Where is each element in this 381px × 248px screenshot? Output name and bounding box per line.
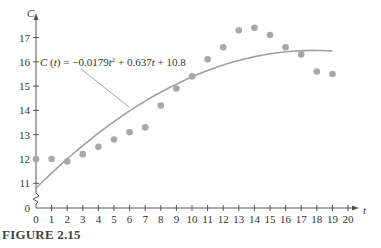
x-tick-label: 17 xyxy=(296,213,308,225)
data-point xyxy=(267,32,274,39)
scatter-chart: Ct01112131415161701234567891011121314151… xyxy=(0,0,381,248)
x-tick-label: 1 xyxy=(49,213,55,225)
y-tick-label: 11 xyxy=(19,177,30,189)
x-tick-label: 11 xyxy=(202,213,213,225)
x-tick-label: 15 xyxy=(265,213,277,225)
x-tick-label: 7 xyxy=(142,213,148,225)
data-point xyxy=(126,129,133,136)
data-points xyxy=(33,24,336,164)
x-tick-label: 14 xyxy=(249,213,261,225)
axes: Ct01112131415161701234567891011121314151… xyxy=(19,7,367,225)
fitted-curve xyxy=(36,50,332,188)
data-point xyxy=(236,27,243,34)
x-tick-label: 9 xyxy=(174,213,180,225)
data-point xyxy=(314,68,321,75)
data-point xyxy=(298,51,305,58)
x-tick-label: 19 xyxy=(327,213,339,225)
x-axis-title: t xyxy=(363,204,367,216)
data-point xyxy=(48,156,55,163)
data-point xyxy=(204,56,211,63)
data-point xyxy=(251,24,258,31)
data-point xyxy=(142,124,149,131)
data-point xyxy=(95,144,102,151)
x-tick-label: 0 xyxy=(33,213,39,225)
data-point xyxy=(111,136,118,143)
y-tick-label: 14 xyxy=(19,104,31,116)
x-tick-label: 18 xyxy=(311,213,323,225)
data-point xyxy=(189,73,196,80)
x-tick-label: 4 xyxy=(96,213,102,225)
data-point xyxy=(329,71,336,78)
y-tick-label: 12 xyxy=(19,153,30,165)
data-point xyxy=(158,102,165,109)
data-point xyxy=(173,85,180,92)
x-tick-label: 20 xyxy=(343,213,355,225)
x-tick-label: 12 xyxy=(218,213,229,225)
y-tick-label: 15 xyxy=(19,80,31,92)
data-point xyxy=(33,156,40,163)
y-axis-title: C xyxy=(27,7,35,19)
data-point xyxy=(64,158,71,165)
y-tick-label: 17 xyxy=(19,32,31,44)
x-tick-label: 6 xyxy=(127,213,133,225)
y-tick-label: 13 xyxy=(19,129,31,141)
x-tick-label: 13 xyxy=(233,213,245,225)
figure-caption: FIGURE 2.15 xyxy=(2,227,81,243)
equation-annotation: C (t) = −0.0179t2 + 0.637t + 10.8 xyxy=(40,56,186,107)
data-point xyxy=(282,44,289,51)
x-tick-label: 16 xyxy=(280,213,292,225)
x-tick-label: 5 xyxy=(111,213,117,225)
x-tick-label: 3 xyxy=(80,213,86,225)
x-tick-label: 10 xyxy=(187,213,199,225)
x-tick-label: 8 xyxy=(158,213,164,225)
equation-label: C (t) = −0.0179t2 + 0.637t + 10.8 xyxy=(40,56,186,69)
data-point xyxy=(80,151,87,158)
x-tick-label: 2 xyxy=(64,213,70,225)
data-point xyxy=(220,44,227,51)
y-tick-label: 0 xyxy=(25,202,31,214)
y-tick-label: 16 xyxy=(19,56,31,68)
